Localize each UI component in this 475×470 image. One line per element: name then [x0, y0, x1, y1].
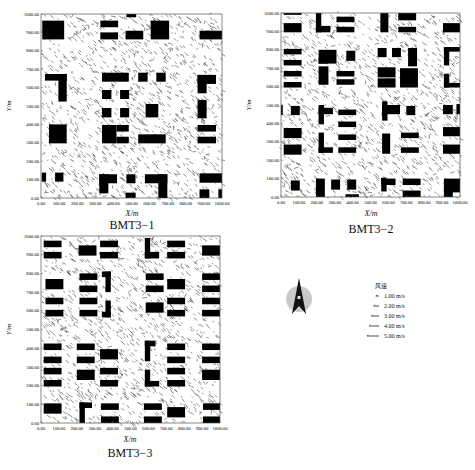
building	[316, 179, 325, 197]
building	[101, 403, 119, 410]
building	[44, 344, 62, 351]
x-tick-label: 800.00	[178, 426, 191, 431]
north-arrow-icon	[285, 274, 325, 324]
legend-item: 2.00 m/s	[367, 301, 405, 311]
building	[392, 48, 401, 57]
y-tick-label: 300.00	[266, 139, 279, 144]
wind-arrow-icon	[367, 333, 381, 339]
building	[79, 286, 97, 293]
building	[316, 26, 330, 32]
building	[45, 279, 63, 289]
building	[338, 134, 356, 140]
building	[398, 27, 416, 33]
x-tick-label: 500.00	[364, 200, 377, 205]
building	[77, 344, 95, 351]
building	[401, 147, 419, 153]
building	[346, 51, 355, 61]
legend-item: 3.00 m/s	[367, 311, 405, 321]
building	[202, 370, 220, 380]
building	[319, 58, 328, 64]
building	[331, 180, 340, 190]
building	[79, 273, 97, 280]
building	[444, 83, 460, 88]
x-tick-label: 600.00	[382, 200, 395, 205]
plot-frame	[281, 13, 460, 197]
building	[100, 252, 118, 259]
building	[100, 380, 118, 387]
legend-label: 3.00 m/s	[384, 311, 405, 321]
legend-label: 1.00 m/s	[384, 291, 405, 301]
building	[347, 180, 356, 190]
building	[167, 298, 185, 305]
building	[44, 380, 62, 387]
wind-arrow-icon	[367, 323, 381, 329]
building	[144, 416, 162, 423]
building	[408, 48, 417, 66]
y-tick-label: 1000.00	[264, 11, 280, 16]
x-tick-label: 700.00	[400, 200, 413, 205]
y-tick-label: 700.00	[266, 66, 279, 71]
y-tick-label: 0.00	[31, 421, 40, 426]
y-tick-label: 800.00	[26, 271, 39, 276]
building	[380, 13, 388, 32]
y-tick-label: 600.00	[26, 308, 39, 313]
x-tick-label: 400.00	[346, 200, 359, 205]
y-tick-label: 400.00	[266, 121, 279, 126]
wind-arrow-icon	[367, 313, 381, 319]
building	[338, 147, 356, 153]
caption-bmt3-1: BMT3−1	[72, 218, 192, 233]
legend-label: 4.00 m/s	[384, 321, 405, 331]
y-tick-label: 500.00	[266, 103, 279, 108]
building	[102, 272, 111, 278]
building	[284, 82, 302, 88]
building	[336, 17, 354, 23]
building	[336, 79, 354, 85]
legend-item: 1.00 m/s	[367, 291, 405, 301]
building	[345, 194, 358, 197]
building	[381, 179, 395, 185]
y-tick-label: 100.00	[26, 402, 39, 407]
y-tick-label: 600.00	[266, 84, 279, 89]
wind-arrow-icon	[367, 303, 381, 309]
x-axis-label-bmt3-1: X/m	[112, 209, 152, 218]
building	[167, 368, 185, 375]
building	[145, 341, 156, 347]
building	[284, 60, 302, 66]
y-tick-label: 900.00	[26, 252, 39, 257]
building	[202, 298, 220, 305]
x-tick-label: 0.00	[277, 200, 286, 205]
building	[336, 27, 354, 33]
building	[378, 67, 396, 77]
building	[401, 133, 419, 139]
building	[100, 368, 118, 375]
y-tick-label: 1000.00	[24, 234, 40, 239]
building	[146, 273, 164, 280]
building	[443, 127, 460, 136]
building	[202, 245, 220, 255]
building	[319, 108, 333, 114]
building	[101, 416, 119, 423]
y-tick-label: 800.00	[266, 47, 279, 52]
y-axis-label: Y/m	[5, 324, 13, 335]
building	[338, 122, 356, 128]
building	[406, 106, 415, 115]
x-tick-label: 900.00	[436, 200, 449, 205]
building	[202, 344, 220, 351]
x-tick-label: 400.00	[106, 426, 119, 431]
x-tick-label: 200.00	[310, 200, 323, 205]
plot-bmt3-3: 0.00100.00200.00300.00400.00500.00600.00…	[0, 0, 240, 470]
x-tick-label: 0.00	[37, 426, 46, 431]
building	[378, 48, 387, 57]
building	[403, 179, 421, 185]
building	[382, 134, 390, 154]
building	[443, 23, 460, 32]
building	[167, 279, 185, 289]
building	[79, 402, 92, 408]
building	[144, 403, 162, 410]
building	[319, 147, 333, 153]
y-tick-label: 200.00	[266, 158, 279, 163]
building	[79, 298, 97, 305]
building	[444, 190, 453, 197]
building	[202, 273, 220, 280]
building	[44, 241, 62, 248]
